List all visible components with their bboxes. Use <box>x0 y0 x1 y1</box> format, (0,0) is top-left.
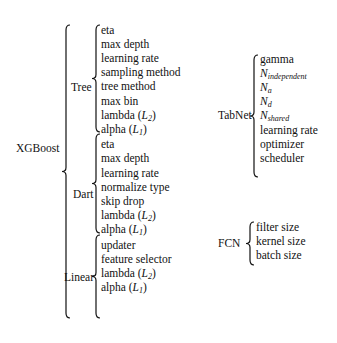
fcn-brace-path <box>246 222 254 265</box>
fcn-brace <box>0 0 337 343</box>
